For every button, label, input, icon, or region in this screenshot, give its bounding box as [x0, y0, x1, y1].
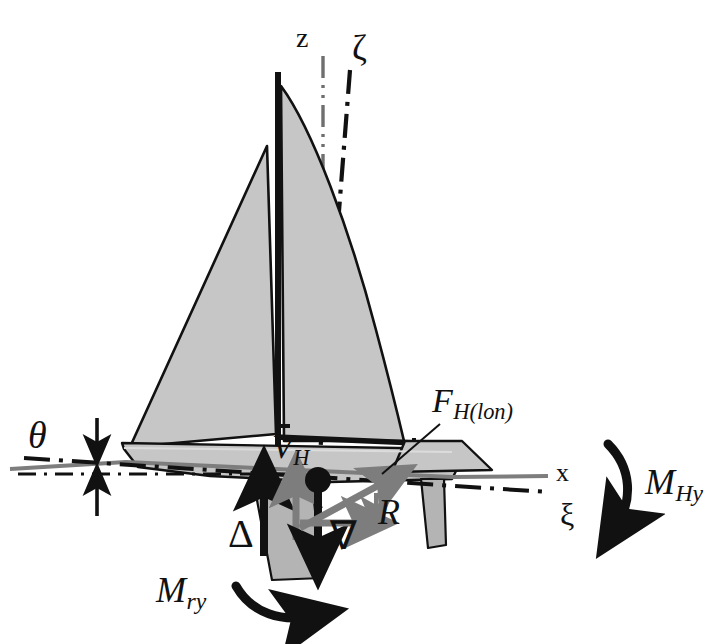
- moment-label-mry-base: M: [156, 570, 186, 610]
- axis-label-zeta: ζ: [352, 30, 367, 66]
- force-label-vh: VH: [272, 430, 309, 464]
- mainsail: [281, 86, 404, 441]
- force-label-fhlon-subscript: H(lon): [453, 399, 513, 424]
- axis-label-x: x: [556, 460, 569, 486]
- force-label-fhlon: FH(lon): [432, 384, 513, 418]
- angle-label-theta: θ: [28, 416, 47, 454]
- moment-mry-arrow: [236, 586, 312, 618]
- force-label-nabla: ∇: [330, 516, 357, 556]
- axis-label-z: z: [296, 24, 308, 52]
- moment-label-mry: Mry: [156, 572, 206, 608]
- deckhouse: [392, 441, 492, 472]
- rudder: [421, 479, 446, 548]
- jib: [130, 146, 276, 447]
- moment-label-mhy-subscript: Hy: [675, 480, 703, 506]
- sailboat-force-diagram: [0, 0, 724, 644]
- force-label-vh-subscript: H: [293, 445, 309, 470]
- axis-label-xi: ξ: [560, 498, 574, 530]
- centre-of-gravity-marker: [305, 467, 331, 493]
- force-label-r: R: [378, 494, 400, 530]
- moment-label-mry-subscript: ry: [186, 588, 206, 614]
- moment-label-mhy-base: M: [645, 462, 675, 502]
- figure-canvas: z ζ x ξ θ Δ ∇ VH R FH(lon) MHy Mry: [0, 0, 724, 644]
- force-label-fhlon-base: F: [432, 382, 453, 419]
- moment-label-mhy: MHy: [645, 464, 703, 500]
- force-label-vh-base: V: [272, 428, 293, 465]
- force-label-delta: Δ: [228, 514, 254, 554]
- moment-mhy-arrow: [608, 444, 628, 527]
